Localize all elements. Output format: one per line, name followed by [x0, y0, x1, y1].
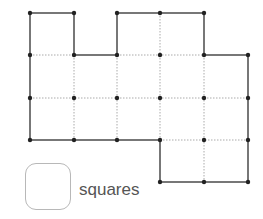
grid-point [202, 180, 206, 184]
grid-point [28, 138, 32, 142]
grid-point [202, 138, 206, 142]
grid-point [202, 96, 206, 100]
grid-point [115, 96, 119, 100]
grid-point [158, 11, 162, 15]
grid-point [115, 11, 119, 15]
grid-point [202, 11, 206, 15]
grid-point [246, 96, 250, 100]
grid-point [72, 11, 76, 15]
grid-point [28, 11, 32, 15]
grid-point [158, 96, 162, 100]
grid-point [158, 138, 162, 142]
rounded-square-icon [25, 163, 71, 210]
grid-point [115, 53, 119, 57]
grid-point [202, 53, 206, 57]
grid-point [158, 53, 162, 57]
grid-point [246, 53, 250, 57]
grid-point [72, 53, 76, 57]
grid-point [72, 138, 76, 142]
grid-point [28, 96, 32, 100]
grid-point [246, 180, 250, 184]
grid-point [115, 138, 119, 142]
grid-point [246, 138, 250, 142]
grid-point [72, 96, 76, 100]
legend-label: squares [79, 180, 139, 200]
grid-point [158, 180, 162, 184]
grid-point [28, 53, 32, 57]
